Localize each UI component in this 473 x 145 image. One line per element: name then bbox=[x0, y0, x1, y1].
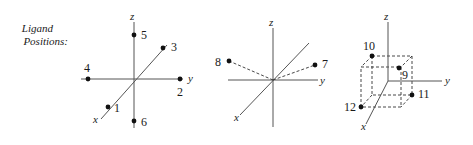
ligand-point-10 bbox=[370, 54, 375, 59]
ligand-point-11 bbox=[410, 93, 415, 98]
point-label-12: 12 bbox=[344, 100, 356, 114]
cube-edge bbox=[401, 56, 412, 67]
title-line-1: Ligand bbox=[21, 22, 54, 34]
ligand-point-8 bbox=[227, 59, 232, 64]
y-axis-label: y bbox=[319, 74, 325, 86]
ligand-point-4 bbox=[86, 77, 91, 82]
x-axis-label: x bbox=[233, 111, 239, 123]
point-label-4: 4 bbox=[84, 61, 90, 75]
y-axis-label: y bbox=[187, 72, 193, 84]
ligand-point-1 bbox=[106, 105, 111, 110]
ligand-point-9 bbox=[397, 66, 402, 71]
ligand-point-2 bbox=[178, 77, 183, 82]
cube-edge bbox=[361, 95, 372, 107]
point-label-1: 1 bbox=[114, 101, 120, 115]
diagram-octahedral: z y x 5 3 4 2 1 6 bbox=[81, 10, 193, 129]
x-axis bbox=[366, 81, 388, 124]
diagram-two-ligands: z y x 8 7 bbox=[215, 16, 328, 127]
point-label-6: 6 bbox=[141, 115, 147, 129]
cube-edge bbox=[401, 95, 412, 107]
point-label-2: 2 bbox=[177, 85, 183, 99]
bond-to-8 bbox=[229, 61, 273, 80]
point-label-10: 10 bbox=[363, 39, 375, 53]
x-axis-label: x bbox=[92, 113, 98, 125]
point-label-9: 9 bbox=[402, 68, 408, 82]
ligand-point-6 bbox=[132, 119, 137, 124]
point-label-5: 5 bbox=[141, 28, 147, 42]
z-axis-label: z bbox=[268, 16, 274, 28]
title-line-2: Positions: bbox=[22, 35, 68, 47]
bond-to-7 bbox=[273, 65, 315, 80]
z-axis-label: z bbox=[129, 10, 135, 22]
ligand-point-3 bbox=[161, 46, 166, 51]
point-label-7: 7 bbox=[322, 57, 328, 71]
x-axis-label: x bbox=[360, 120, 366, 132]
ligand-positions-figure: Ligand Positions: z y x 5 3 4 2 1 6 z y … bbox=[0, 0, 473, 145]
point-label-3: 3 bbox=[171, 40, 177, 54]
point-label-11: 11 bbox=[418, 87, 430, 101]
point-label-8: 8 bbox=[215, 55, 221, 69]
z-axis-label: z bbox=[383, 10, 389, 22]
ligand-point-12 bbox=[359, 105, 364, 110]
y-axis-label: y bbox=[444, 74, 450, 86]
ligand-point-7 bbox=[313, 63, 318, 68]
diagram-cube: z y x 10 9 11 12 bbox=[344, 10, 450, 132]
ligand-point-5 bbox=[132, 33, 137, 38]
